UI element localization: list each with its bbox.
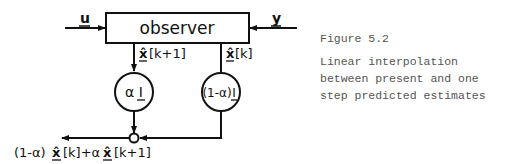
gain-alpha-label: α I: [125, 84, 143, 100]
caption-line-1: Linear interpolation: [320, 53, 486, 70]
figure-number: Figure 5.2: [320, 30, 486, 47]
caption-line-2: between present and one: [320, 70, 486, 87]
one-minus-alpha-branch-to-sum: [140, 111, 221, 138]
predicted-estimate-index: [k+1]: [149, 46, 186, 61]
figure-caption: Figure 5.2 Linear interpolation between …: [320, 30, 486, 104]
gain-one-minus-alpha-matrix: I: [232, 86, 236, 100]
output-label: (1-α) x̂ [k]+α x̂ [k+1]: [14, 145, 151, 160]
observer-label: observer: [139, 18, 214, 38]
present-estimate-index: [k]: [235, 46, 253, 61]
input-u-label: u: [80, 10, 90, 26]
input-y-label: y: [272, 10, 281, 26]
gain-one-minus-alpha-label: (1-α): [202, 86, 231, 100]
predicted-estimate-hat: x̂: [139, 46, 148, 61]
present-estimate-hat: x̂: [226, 46, 235, 61]
summing-junction: [130, 134, 139, 143]
caption-line-3: step predicted estimates: [320, 87, 486, 104]
